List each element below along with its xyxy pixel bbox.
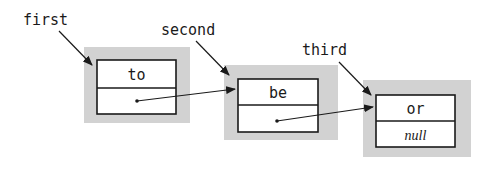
linked-list-diagram: to be or null first second third <box>0 0 477 171</box>
label-second: second <box>161 21 215 39</box>
node-1-item: to <box>127 66 145 84</box>
node-3-item: or <box>406 100 424 118</box>
label-third-arrow <box>339 62 371 95</box>
label-first: first <box>23 11 68 29</box>
node-2-item: be <box>269 84 287 102</box>
node-3-next-null: null <box>405 128 427 143</box>
label-second-arrow <box>196 41 229 75</box>
node-1: to <box>84 47 190 123</box>
node-3: or null <box>363 80 471 157</box>
label-third: third <box>302 41 347 59</box>
node-2: be <box>224 65 338 140</box>
